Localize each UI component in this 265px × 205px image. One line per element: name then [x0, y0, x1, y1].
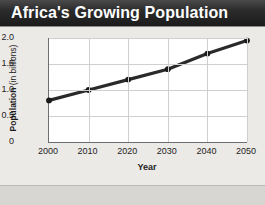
- plot-area: [48, 38, 247, 143]
- gridline-horizontal: [49, 90, 247, 91]
- figure-title-bar: Africa's Growing Population: [0, 0, 265, 27]
- x-tick-label: 2000: [26, 146, 70, 156]
- gridline-horizontal: [49, 116, 247, 117]
- africa-population-figure: Africa's Growing Population Population (…: [0, 0, 265, 205]
- chart-panel: Population (in billions) 00.51.01.52.0 2…: [0, 27, 265, 185]
- x-axis-title: Year: [48, 162, 246, 172]
- x-tick-label: 2010: [66, 146, 110, 156]
- y-tick-label: 2.0: [0, 32, 14, 42]
- page-title: Africa's Growing Population: [11, 4, 228, 22]
- y-tick-label: 1.0: [0, 84, 14, 94]
- gridline-vertical: [128, 38, 129, 142]
- caption-strip: [0, 185, 265, 205]
- y-tick-label: 0.5: [0, 110, 14, 120]
- gridline-vertical: [247, 38, 248, 142]
- y-tick-label: 0: [0, 136, 14, 146]
- gridline-horizontal: [49, 38, 247, 39]
- gridline-horizontal: [49, 64, 247, 65]
- data-point-marker: [46, 98, 52, 104]
- x-tick-label: 2040: [184, 146, 228, 156]
- x-tick-label: 2050: [224, 146, 265, 156]
- gridline-vertical: [89, 38, 90, 142]
- gridline-vertical: [168, 38, 169, 142]
- y-tick-label: 1.5: [0, 58, 14, 68]
- gridline-vertical: [207, 38, 208, 142]
- x-tick-label: 2030: [145, 146, 189, 156]
- series-line: [49, 41, 247, 101]
- x-tick-label: 2020: [105, 146, 149, 156]
